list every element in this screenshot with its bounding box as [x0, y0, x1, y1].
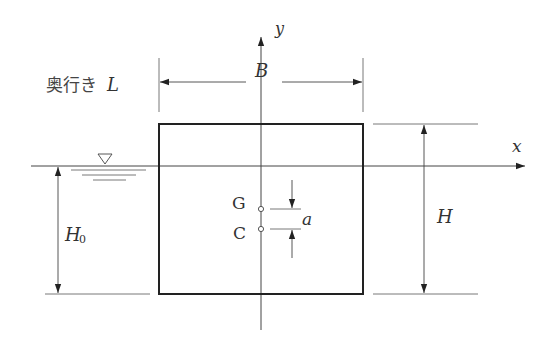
- height-label-H: H: [436, 206, 453, 227]
- y-axis-label: y: [274, 19, 285, 38]
- floating-body-diagram: 奥行き L B y x H H 0 G C a: [0, 0, 554, 337]
- gravity-center-label-G: G: [232, 193, 246, 213]
- buoyancy-center-point: [258, 226, 263, 231]
- draft-dimension-H0: [45, 167, 150, 294]
- x-axis-label: x: [512, 136, 522, 156]
- depth-label: 奥行き: [46, 75, 97, 95]
- draft-label-subscript: 0: [79, 233, 86, 246]
- depth-symbol-L: L: [106, 74, 119, 95]
- height-dimension-H: [373, 124, 478, 294]
- gravity-center-point: [258, 206, 263, 211]
- offset-label-a: a: [302, 209, 312, 229]
- buoyancy-center-label-C: C: [233, 223, 246, 243]
- water-surface-icon: [71, 154, 146, 180]
- offset-dimension-a: [270, 180, 301, 258]
- width-label-B: B: [254, 60, 268, 81]
